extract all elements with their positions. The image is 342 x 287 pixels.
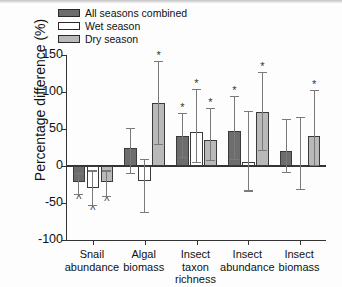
error-cap-2-0-upper	[178, 113, 187, 114]
legend-item-dry-season: Dry season	[58, 33, 187, 45]
error-bar-2-0	[182, 113, 183, 157]
error-bar-3-0	[234, 96, 235, 160]
significance-marker-3-0: *	[228, 87, 240, 93]
error-bar-1-1	[144, 159, 145, 212]
legend-label-all-seasons: All seasons combined	[85, 8, 187, 19]
error-cap-3-2-upper	[258, 72, 267, 73]
y-tick-label: 150	[42, 47, 63, 61]
error-cap-2-0-lower	[178, 157, 187, 158]
error-cap-2-2-lower	[206, 160, 215, 161]
error-bar-3-2	[262, 72, 263, 150]
scan-artifact-band	[0, 0, 342, 3]
error-cap-3-2-lower	[258, 150, 267, 151]
error-cap-4-0-lower	[282, 172, 291, 173]
legend-item-wet-season: Wet season	[58, 20, 187, 32]
error-cap-4-0-upper	[282, 119, 291, 120]
error-cap-1-1-lower	[140, 212, 149, 213]
error-cap-2-2-upper	[206, 108, 215, 109]
error-bar-2-2	[210, 108, 211, 160]
error-cap-2-1-lower	[192, 162, 201, 163]
significance-marker-2-1: *	[191, 80, 203, 86]
error-bar-4-1	[300, 117, 301, 189]
error-cap-0-0-upper	[74, 173, 83, 174]
error-bar-4-2	[314, 90, 315, 165]
significance-marker-3-2: *	[256, 63, 268, 69]
plot-area: -100-50050100150 ^^^*******	[66, 55, 325, 240]
y-tick-label: -100	[38, 232, 63, 246]
y-axis-title: Percentage difference (%)	[32, 0, 48, 200]
legend-label-wet-season: Wet season	[85, 21, 140, 32]
error-cap-1-2-upper	[154, 61, 163, 62]
error-cap-3-0-upper	[230, 96, 239, 97]
error-bar-1-2	[158, 61, 159, 144]
y-tick-label: 0	[56, 158, 63, 172]
error-cap-0-2-upper	[102, 170, 111, 171]
error-bar-4-0	[286, 119, 287, 172]
error-cap-1-0-lower	[126, 173, 135, 174]
error-bar-0-2	[106, 170, 107, 195]
significance-marker-2-0: *	[177, 104, 189, 110]
significance-marker-4-2: *	[308, 81, 320, 87]
significance-marker-2-2: *	[205, 99, 217, 105]
chart-legend: All seasons combined Wet season Dry seas…	[58, 7, 187, 45]
y-tick-label: 50	[49, 121, 63, 135]
error-cap-4-1-lower	[296, 189, 305, 190]
x-axis-label-4: Insectbiomass	[267, 248, 331, 273]
legend-label-dry-season: Dry season	[85, 34, 138, 45]
error-cap-1-2-lower	[154, 144, 163, 145]
error-bar-3-1	[248, 111, 249, 190]
error-bar-2-1	[196, 89, 197, 162]
error-cap-3-1-upper	[244, 111, 253, 112]
x-axis-line	[67, 240, 326, 241]
y-tick-label: -50	[45, 195, 63, 209]
error-bar-0-0	[78, 173, 79, 194]
chart-figure: All seasons combined Wet season Dry seas…	[0, 0, 342, 287]
legend-item-all-seasons: All seasons combined	[58, 7, 187, 19]
legend-swatch-dry-season	[58, 35, 80, 43]
legend-swatch-all-seasons	[58, 9, 80, 17]
error-cap-4-1-upper	[296, 117, 305, 118]
error-cap-0-1-upper	[88, 170, 97, 171]
error-cap-3-0-lower	[230, 159, 239, 160]
y-tick-label: 100	[42, 84, 63, 98]
error-cap-4-2-upper	[310, 90, 319, 91]
error-bar-1-0	[130, 128, 131, 174]
error-cap-1-0-upper	[126, 128, 135, 129]
significance-marker-0-1: ^	[87, 207, 99, 213]
error-cap-1-1-upper	[140, 159, 149, 160]
significance-marker-0-0: ^	[73, 196, 85, 202]
error-cap-3-1-lower	[244, 190, 253, 191]
legend-swatch-wet-season	[58, 22, 80, 30]
error-cap-2-1-upper	[192, 89, 201, 90]
error-cap-4-2-lower	[310, 165, 319, 166]
significance-marker-0-2: ^	[101, 198, 113, 204]
significance-marker-1-2: *	[153, 52, 165, 58]
error-bar-0-1	[92, 170, 93, 205]
